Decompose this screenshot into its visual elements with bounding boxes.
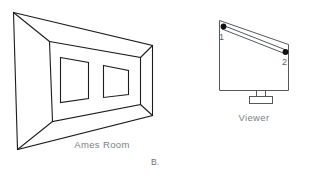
viewer-screen-outline [220, 21, 289, 91]
ames-room-drawing: Ames Room [14, 13, 153, 151]
ames-room-inner-frame [50, 42, 141, 122]
ames-room-left-window [61, 58, 89, 103]
viewer-drawing: 1 2 Viewer [219, 21, 289, 124]
ames-room-right-window [104, 66, 129, 98]
point-two-dot [283, 49, 289, 55]
viewer-caption: Viewer [239, 112, 270, 123]
viewer-stand-base [250, 97, 273, 104]
ames-room-outer-frame [14, 13, 153, 150]
panel-label: B. [151, 157, 159, 167]
point-one-label: 1 [219, 32, 224, 42]
point-two-label: 2 [282, 57, 287, 67]
figure-svg: Ames Room 1 2 Viewer B. [0, 0, 309, 178]
viewer-sight-line [222, 26, 286, 54]
ames-room-edge-top-right [141, 46, 153, 58]
ames-room-edge-bottom-right [141, 105, 153, 116]
point-one-dot [221, 24, 227, 30]
figure-root: Ames Room 1 2 Viewer B. [0, 0, 309, 178]
viewer-stand-neck [257, 91, 266, 97]
ames-room-caption: Ames Room [74, 139, 129, 150]
